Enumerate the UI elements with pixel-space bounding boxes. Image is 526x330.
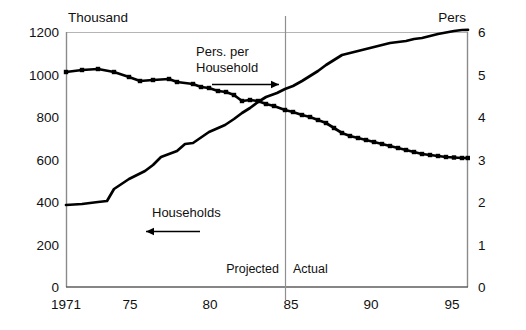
left-tick-label: 400 bbox=[36, 195, 59, 210]
x-tick-label: 90 bbox=[363, 297, 378, 312]
left-tick-label: 1000 bbox=[29, 68, 59, 83]
x-tick-label: 75 bbox=[122, 297, 137, 312]
right-tick-label: 0 bbox=[478, 280, 486, 295]
right-tick-label: 6 bbox=[478, 25, 486, 40]
right-axis-unit-label: Pers bbox=[438, 10, 466, 25]
right-tick-label: 1 bbox=[478, 238, 486, 253]
chart-background bbox=[0, 0, 526, 330]
line-chart-svg: Thousand Pers 1200 1000 800 600 400 200 … bbox=[0, 0, 526, 330]
left-tick-label: 200 bbox=[36, 238, 59, 253]
left-axis-unit-label: Thousand bbox=[68, 10, 128, 25]
pers-per-household-annotation-line1: Pers. per bbox=[196, 44, 249, 59]
households-annotation-label: Households bbox=[152, 205, 221, 220]
left-tick-label: 800 bbox=[36, 110, 59, 125]
x-tick-label: 95 bbox=[444, 297, 459, 312]
left-tick-label: 0 bbox=[51, 280, 59, 295]
region-label-projected: Projected bbox=[226, 262, 279, 276]
left-tick-label: 600 bbox=[36, 153, 59, 168]
x-tick-label: 80 bbox=[202, 297, 217, 312]
right-tick-label: 5 bbox=[478, 68, 486, 83]
right-tick-label: 2 bbox=[478, 195, 486, 210]
right-tick-label: 3 bbox=[478, 153, 486, 168]
right-tick-label: 4 bbox=[478, 110, 486, 125]
region-label-actual: Actual bbox=[293, 262, 328, 276]
x-tick-label: 1971 bbox=[51, 297, 81, 312]
chart-figure: Thousand Pers 1200 1000 800 600 400 200 … bbox=[0, 0, 526, 330]
left-tick-label: 1200 bbox=[29, 25, 59, 40]
pers-per-household-annotation-line2: Household bbox=[196, 60, 258, 75]
x-tick-label: 85 bbox=[283, 297, 298, 312]
